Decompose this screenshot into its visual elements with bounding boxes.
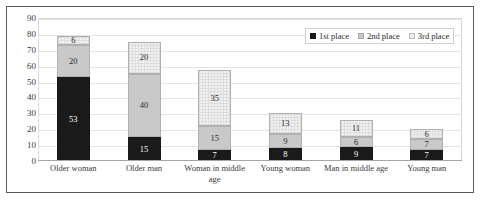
bar-value-label: 53 (69, 115, 78, 124)
x-axis-category-label: Older woman (38, 163, 109, 174)
bar-value-label: 40 (140, 101, 149, 110)
bar-value-label: 7 (425, 140, 429, 149)
bar-value-label: 9 (283, 137, 287, 146)
bar-value-label: 9 (354, 150, 358, 159)
bar-value-label: 6 (71, 36, 75, 45)
legend-item-label: 1st place (319, 31, 349, 41)
legend-item[interactable]: 1st place (310, 31, 349, 41)
legend-item[interactable]: 3rd place (409, 31, 449, 41)
legend-item-label: 3rd place (418, 31, 449, 41)
bar-group[interactable]: 204015 (128, 42, 161, 161)
y-axis-tick-label: 30 (10, 109, 36, 118)
bar-value-label: 13 (281, 119, 290, 128)
bar-value-label: 7 (213, 151, 217, 160)
y-axis-tick-label: 70 (10, 45, 36, 54)
x-axis-baseline (38, 160, 462, 161)
bar-value-label: 11 (352, 124, 360, 133)
legend-swatch-light (409, 33, 415, 39)
bar-segment[interactable]: 35 (198, 70, 231, 126)
bar-segment[interactable]: 15 (128, 137, 161, 161)
x-axis-category-label: Older man (109, 163, 180, 174)
bar-segment[interactable]: 6 (410, 129, 443, 139)
bar-value-label: 20 (69, 57, 78, 66)
bar-segment[interactable]: 13 (269, 113, 302, 134)
y-axis: 9080706050403020100 (7, 18, 36, 161)
bar-segment[interactable]: 6 (57, 36, 90, 46)
y-axis-tick-label: 50 (10, 77, 36, 86)
bar-segment[interactable]: 9 (340, 147, 373, 161)
bar-value-label: 20 (140, 53, 149, 62)
legend-item[interactable]: 2nd place (358, 31, 400, 41)
bar-group[interactable]: 677 (410, 129, 443, 161)
legend-swatch-gray (358, 33, 364, 39)
bar-segment[interactable]: 6 (340, 137, 373, 147)
y-axis-tick-label: 40 (10, 93, 36, 102)
chart-legend: 1st place2nd place3rd place (305, 28, 454, 44)
y-axis-tick-label: 60 (10, 61, 36, 70)
legend-swatch-black (310, 33, 316, 39)
x-axis-category-label: Man in middle age (321, 163, 392, 174)
x-axis-labels: Older womanOlder manWoman in middle ageY… (38, 163, 462, 189)
bar-value-label: 35 (210, 94, 219, 103)
chart-container: 9080706050403020100 62053204015351571398… (6, 6, 474, 193)
bar-value-label: 15 (140, 145, 149, 154)
bar-group[interactable]: 35157 (198, 70, 231, 161)
bar-value-label: 7 (425, 151, 429, 160)
y-axis-tick-label: 90 (10, 14, 36, 23)
x-axis-category-label: Young man (391, 163, 462, 174)
bar-segment[interactable]: 53 (57, 77, 90, 161)
bar-segment[interactable]: 20 (57, 45, 90, 77)
bar-group[interactable]: 62053 (57, 36, 90, 162)
bar-group[interactable]: 1398 (269, 113, 302, 161)
bar-segment[interactable]: 9 (269, 134, 302, 148)
bar-value-label: 6 (354, 138, 358, 147)
y-axis-tick-label: 0 (10, 157, 36, 166)
x-axis-category-label: Woman in middle age (179, 163, 250, 184)
bar-segment[interactable]: 7 (410, 139, 443, 150)
bar-value-label: 8 (283, 150, 287, 159)
bar-value-label: 15 (210, 134, 219, 143)
bar-segment[interactable]: 40 (128, 74, 161, 138)
y-axis-tick-label: 80 (10, 29, 36, 38)
bar-segment[interactable]: 15 (198, 126, 231, 150)
y-axis-tick-label: 20 (10, 125, 36, 134)
bar-group[interactable]: 1169 (340, 120, 373, 161)
x-axis-category-label: Young woman (250, 163, 321, 174)
legend-item-label: 2nd place (367, 31, 400, 41)
bar-segment[interactable]: 11 (340, 120, 373, 137)
bar-segment[interactable]: 20 (128, 42, 161, 74)
y-axis-tick-label: 10 (10, 141, 36, 150)
bar-value-label: 6 (425, 130, 429, 139)
